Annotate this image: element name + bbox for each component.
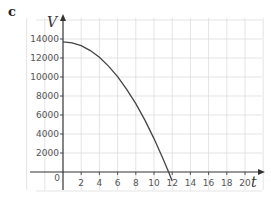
svg-text:6: 6 bbox=[115, 178, 121, 188]
svg-text:20: 20 bbox=[239, 178, 251, 188]
svg-text:4: 4 bbox=[97, 178, 103, 188]
svg-text:10000: 10000 bbox=[30, 72, 59, 82]
svg-text:8: 8 bbox=[133, 178, 139, 188]
grid bbox=[27, 18, 264, 191]
x-axis-label: t bbox=[251, 174, 257, 190]
svg-text:10: 10 bbox=[148, 178, 160, 188]
svg-text:2000: 2000 bbox=[36, 148, 59, 158]
svg-text:16: 16 bbox=[203, 178, 215, 188]
chart: 2468101214161820200040006000800010000120… bbox=[0, 0, 271, 198]
svg-text:8000: 8000 bbox=[36, 91, 59, 101]
svg-text:18: 18 bbox=[221, 178, 233, 188]
svg-text:14000: 14000 bbox=[30, 34, 59, 44]
svg-text:14: 14 bbox=[185, 178, 197, 188]
axes bbox=[30, 14, 265, 190]
svg-text:12000: 12000 bbox=[30, 53, 59, 63]
y-axis-label: V bbox=[47, 14, 59, 30]
svg-text:4000: 4000 bbox=[36, 129, 59, 139]
svg-text:2: 2 bbox=[78, 178, 84, 188]
svg-text:0: 0 bbox=[54, 173, 60, 183]
svg-text:6000: 6000 bbox=[36, 110, 59, 120]
